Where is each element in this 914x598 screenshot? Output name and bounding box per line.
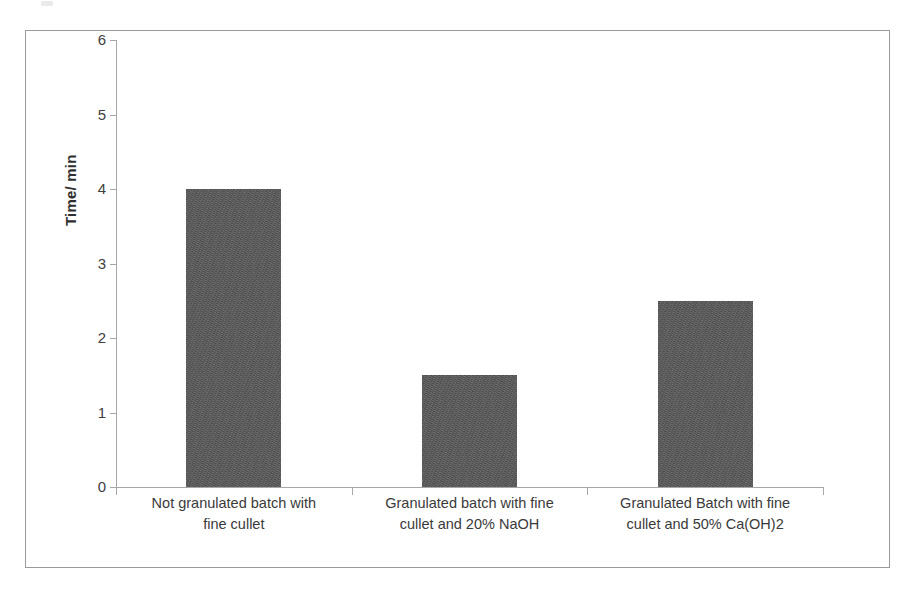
x-axis-category-label-line: cullet and 20% NaOH: [352, 514, 588, 535]
chart-figure-frame: Time/ min 0123456 Not granulated batch w…: [25, 30, 890, 568]
bar: [422, 375, 517, 487]
x-axis-category-label-line: Not granulated batch with: [116, 493, 352, 514]
y-axis-tick-label: 6: [66, 32, 106, 47]
plot-area: [116, 40, 823, 487]
x-axis-line: [116, 487, 824, 488]
y-axis-tick-label: 0: [66, 479, 106, 494]
bar: [658, 301, 753, 487]
x-axis-category-label-line: fine cullet: [116, 514, 352, 535]
x-axis-category-label: Granulated batch with finecullet and 20%…: [352, 493, 588, 535]
x-axis-category-label-line: cullet and 50% Ca(OH)2: [587, 514, 823, 535]
x-axis-category-label: Granulated Batch with finecullet and 50%…: [587, 493, 823, 535]
y-axis-tick-label: 5: [66, 107, 106, 122]
x-axis-category-label: Not granulated batch withfine cullet: [116, 493, 352, 535]
y-axis-tick-label: 2: [66, 330, 106, 345]
x-axis-category-label-line: Granulated Batch with fine: [587, 493, 823, 514]
y-axis-tick-label: 4: [66, 181, 106, 196]
y-axis-tick-label: 1: [66, 405, 106, 420]
y-axis-tick-labels: 0123456: [56, 31, 106, 496]
x-axis-category-labels: Not granulated batch withfine culletGran…: [116, 493, 824, 563]
y-axis-tick-label: 3: [66, 256, 106, 271]
bar: [186, 189, 281, 487]
scan-artifact: [41, 1, 53, 6]
x-axis-category-label-line: Granulated batch with fine: [352, 493, 588, 514]
